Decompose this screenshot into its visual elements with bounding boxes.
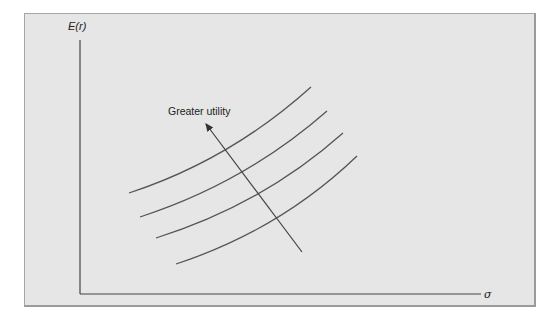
indifference-curve-4: [176, 156, 357, 264]
greater-utility-label: Greater utility: [168, 105, 230, 117]
indifference-curves-plot: [0, 0, 556, 323]
y-axis-label: E(r): [68, 20, 86, 32]
indifference-curve-2: [140, 111, 327, 217]
x-axis-label: σ: [484, 288, 492, 301]
indifference-curve-3: [156, 133, 343, 238]
indifference-curve-1: [129, 87, 311, 193]
